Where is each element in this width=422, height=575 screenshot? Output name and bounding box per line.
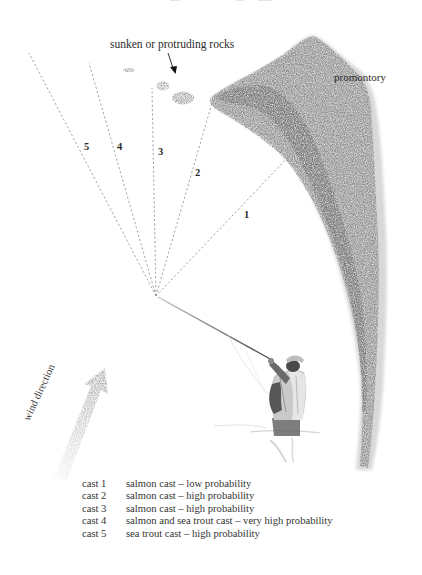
- legend: cast 1salmon cast – low probability cast…: [82, 478, 333, 540]
- legend-cast-name: cast 1: [82, 478, 126, 490]
- cast-line-5: [29, 53, 156, 296]
- cast-number-1: 1: [244, 210, 249, 221]
- legend-cast-description: salmon and sea trout cast – very high pr…: [126, 515, 333, 526]
- legend-cast-description: salmon cast – high probability: [126, 503, 254, 514]
- rock-small-top: [123, 68, 135, 72]
- cast-line-1: [156, 155, 290, 296]
- fishing-rod: [158, 297, 272, 396]
- cast-number-3: 3: [158, 147, 163, 158]
- rock-large: [172, 92, 194, 105]
- legend-item-cast-3: cast 3salmon cast – high probability: [82, 503, 333, 515]
- legend-cast-name: cast 5: [82, 528, 126, 540]
- cast-number-5: 5: [84, 142, 89, 153]
- legend-item-cast-4: cast 4salmon and sea trout cast – very h…: [82, 515, 333, 527]
- legend-item-cast-1: cast 1salmon cast – low probability: [82, 478, 333, 490]
- cast-number-4: 4: [117, 142, 122, 153]
- legend-cast-name: cast 4: [82, 515, 126, 527]
- promontory-label: promontory: [334, 72, 386, 83]
- rocks-group: [123, 68, 194, 105]
- rocks-pointer-arrow: [168, 53, 177, 74]
- legend-cast-description: salmon cast – low probability: [126, 478, 251, 489]
- legend-item-cast-2: cast 2salmon cast – high probability: [82, 490, 333, 502]
- legend-item-cast-5: cast 5sea trout cast – high probability: [82, 528, 333, 540]
- legend-cast-name: cast 2: [82, 490, 126, 502]
- rock-small: [157, 82, 170, 91]
- legend-cast-description: salmon cast – high probability: [126, 490, 254, 501]
- cast-line-4: [89, 63, 156, 296]
- angler-figure: [214, 356, 320, 463]
- cast-line-3: [152, 88, 156, 296]
- legend-cast-name: cast 3: [82, 503, 126, 515]
- cast-number-2: 2: [195, 168, 200, 179]
- wind-direction-arrow: [54, 368, 108, 482]
- legend-cast-description: sea trout cast – high probability: [126, 528, 260, 539]
- rocks-label: sunken or protruding rocks: [110, 39, 234, 51]
